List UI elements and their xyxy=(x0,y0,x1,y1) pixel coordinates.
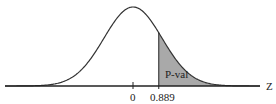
normal-distribution-chart: Z 0 0.889 P-val xyxy=(0,0,276,104)
p-value-label: P-val xyxy=(165,69,188,80)
plot-area xyxy=(0,0,276,104)
tick-label-zero: 0 xyxy=(130,92,136,103)
tick-label-cutoff: 0.889 xyxy=(150,92,175,103)
normal-curve xyxy=(5,7,260,86)
z-axis-label: Z xyxy=(266,81,273,92)
